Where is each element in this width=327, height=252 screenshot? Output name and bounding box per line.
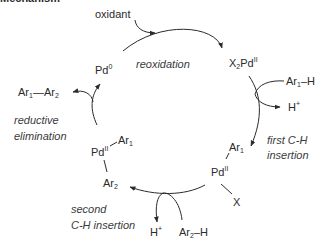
reductive-label-1: reductive [14,114,59,127]
ar1h-suffix: –H [301,75,315,87]
pd2-ar-x-oxidation: II [224,165,228,172]
product-ar1-ar2: Ar1—Ar2 [18,86,59,99]
second-ch-label-1: second [71,203,106,216]
pd0-species: Pd0 [95,64,112,77]
reoxidation-label: reoxidation [136,58,190,71]
hplus-2-charge: + [158,225,162,232]
pd2-ar-x-base: Pd [211,166,224,178]
pd0-base: Pd [95,64,108,76]
reoxidation-arrow [123,29,222,51]
ar2h-reagent: Ar2–H [179,226,208,239]
first-ch-label-2: insertion [267,149,309,162]
first-ch-arrow [249,76,259,146]
reductive-label-2: elimination [14,130,67,143]
pd2-ar-ar-base: Pd [91,146,104,158]
pd2-ar1-base: Ar [118,134,129,146]
bond-pd-ar1-left [110,142,117,146]
ar1h-reagent: Ar1–H [286,75,315,88]
product-ar2-base: Ar [44,86,55,98]
hplus-out-arrow-2 [156,193,163,222]
pd2-ar2-ligand: Ar2 [103,177,118,190]
hplus-2: H+ [150,226,162,239]
hplus-1: H+ [288,101,300,114]
x2pd2-species: X2PdII [229,57,258,70]
ar1h-base: Ar [286,75,297,87]
ar1h-arrow [255,81,284,94]
ar2h-base: Ar [179,226,190,238]
x2pd2-base: Pd [240,57,253,69]
ar2h-suffix: –H [194,226,208,238]
pd2-ar-ar-oxidation: II [104,145,108,152]
oxidant-arrow [135,20,155,33]
second-ch-label-2: C-H insertion [71,219,135,232]
first-ch-label-1: first C-H [267,134,307,147]
product-arrow [73,91,93,102]
pd2-ar1-ligand-index: 1 [240,147,244,154]
pd2-ar1-ligand-base: Ar [229,141,240,153]
product-bond: — [33,86,44,98]
pd2-x-ligand: X [233,196,240,209]
pd2-ar1-ligand: Ar1 [229,141,244,154]
product-ar2-index: 2 [55,92,59,99]
bond-pd-ar2-left [104,160,107,172]
second-ch-arrow [130,185,205,194]
pd2-ar-x-center: PdII [211,166,228,179]
oxidant-label: oxidant [95,8,130,21]
x2pd2-oxidation: II [254,56,258,63]
reductive-elimination-arrow [92,84,100,125]
hplus-1-charge: + [296,100,300,107]
product-ar1-base: Ar [18,86,29,98]
hplus-2-base: H [150,226,158,238]
pd2-ar1-ar2-top-ligand: Ar1 [118,134,133,147]
pd2-ar2-index: 2 [114,183,118,190]
ar2h-arrow [163,193,182,220]
pd0-oxidation: 0 [108,63,112,70]
pd2-ar2-base: Ar [103,177,114,189]
pd2-ar1-index: 1 [129,140,133,147]
pd2-ar-ar-center: PdII [91,146,108,159]
bond-pd-x [221,184,232,194]
hplus-1-base: H [288,101,296,113]
